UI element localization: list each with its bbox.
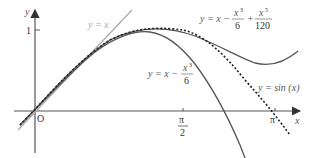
svg-text:6: 6 xyxy=(235,20,240,31)
x-tick-label-pi-half-num: π xyxy=(179,114,184,125)
svg-text:x: x xyxy=(258,7,264,18)
svg-text:+: + xyxy=(247,13,254,24)
chart-svg: y x O 1 π 2 π y = x y = x − x 3 6 + x 5 … xyxy=(0,0,314,158)
svg-text:3: 3 xyxy=(189,62,192,68)
x-axis-label: x xyxy=(294,115,300,126)
svg-text:6: 6 xyxy=(184,75,189,86)
svg-text:y = x −: y = x − xyxy=(147,68,178,79)
x-tick-label-pi: π xyxy=(270,114,275,125)
label-y-equals-x: y = x xyxy=(87,19,109,30)
x-tick-label-pi-half-den: 2 xyxy=(180,127,185,138)
y-axis-label: y xyxy=(24,6,30,17)
svg-text:5: 5 xyxy=(265,7,268,13)
label-sin: y = sin (x) xyxy=(257,82,300,94)
svg-text:y = x −: y = x − xyxy=(199,13,230,24)
origin-label: O xyxy=(37,113,44,124)
series-cubic xyxy=(20,32,245,158)
svg-text:x: x xyxy=(182,62,188,73)
taylor-series-chart: y x O 1 π 2 π y = x y = x − x 3 6 + x 5 … xyxy=(0,0,314,158)
label-quintic: y = x − x 3 6 + x 5 120 xyxy=(199,7,272,31)
svg-text:120: 120 xyxy=(255,20,270,31)
svg-text:3: 3 xyxy=(240,7,243,13)
y-tick-label-1: 1 xyxy=(26,25,31,36)
svg-text:x: x xyxy=(233,7,239,18)
label-cubic: y = x − x 3 6 xyxy=(147,62,193,86)
